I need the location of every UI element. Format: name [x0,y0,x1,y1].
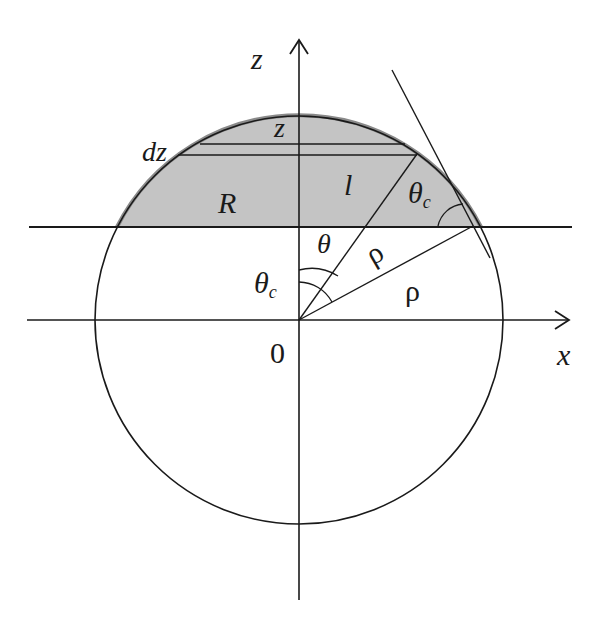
theta-c-outer-label: θc [408,178,431,211]
theta-c-arc-inner [299,282,332,302]
R-label: R [218,188,236,218]
theta-c-inner-symbol: θ [254,266,269,299]
rho-label-lower: ρ [405,276,420,306]
z-axis-label: z [251,44,263,74]
theta-c-inner-subscript: c [269,282,277,302]
x-axis-label: x [557,340,570,370]
dz-label: dz [142,138,167,166]
l-label: l [344,170,352,200]
theta-c-outer-subscript: c [423,192,431,212]
spherical-cap-diagram: z x 0 z dz R l θ θc θc ρ ρ [0,0,599,629]
origin-label: 0 [270,338,285,368]
theta-c-outer-symbol: θ [408,176,423,209]
diagram-graphics [0,0,599,629]
theta-label: θ [317,230,331,258]
slice-z-label: z [274,114,285,142]
theta-c-inner-label: θc [254,268,277,301]
theta-arc [299,268,338,276]
